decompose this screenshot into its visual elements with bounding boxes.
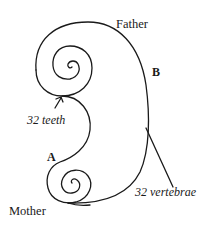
vertebrae-pointer-line: [146, 128, 173, 187]
label-father: Father: [116, 17, 149, 31]
upper-spiral: [36, 46, 92, 96]
label-teeth: 32 teeth: [26, 113, 65, 127]
label-point-a: A: [47, 150, 56, 164]
label-mother: Mother: [9, 204, 47, 218]
spiral-diagram: Father B 32 teeth A Mother 32 vertebrae: [0, 0, 213, 233]
label-point-b: B: [152, 65, 160, 79]
label-vertebrae: 32 vertebrae: [134, 185, 197, 199]
